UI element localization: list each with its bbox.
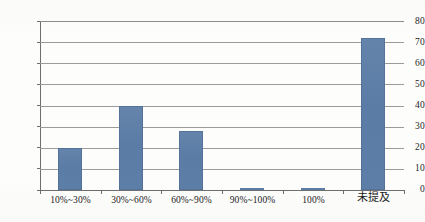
gridline-20: [40, 148, 404, 149]
xcat-label-60-90: 60%~90%: [161, 194, 222, 206]
xcat-label-100: 100%: [283, 194, 344, 206]
bar-chart: 80 70 60 50 40 30 20 10 0: [0, 0, 425, 222]
gridline-80: [40, 21, 404, 22]
gridline-70: [40, 42, 404, 43]
bar-10-30: [58, 148, 82, 190]
xcat-label-30-60: 30%~60%: [101, 194, 162, 206]
gridline-30: [40, 127, 404, 128]
gridline-60: [40, 63, 404, 64]
xcat-label-90-100: 90%~100%: [222, 194, 283, 206]
gridline-10: [40, 169, 404, 170]
bar-90-100: [240, 188, 264, 190]
plot-area: [40, 21, 404, 190]
xcat-label-not-mentioned: 未提及: [343, 192, 404, 204]
bar-100: [301, 188, 325, 190]
xtick-mark-6: [404, 190, 405, 194]
gridline-50: [40, 84, 404, 85]
gridline-40: [40, 106, 404, 107]
bar-30-60: [119, 106, 143, 191]
bar-60-90: [179, 131, 203, 190]
xcat-label-10-30: 10%~30%: [40, 194, 101, 206]
bar-not-mentioned: [361, 38, 385, 190]
